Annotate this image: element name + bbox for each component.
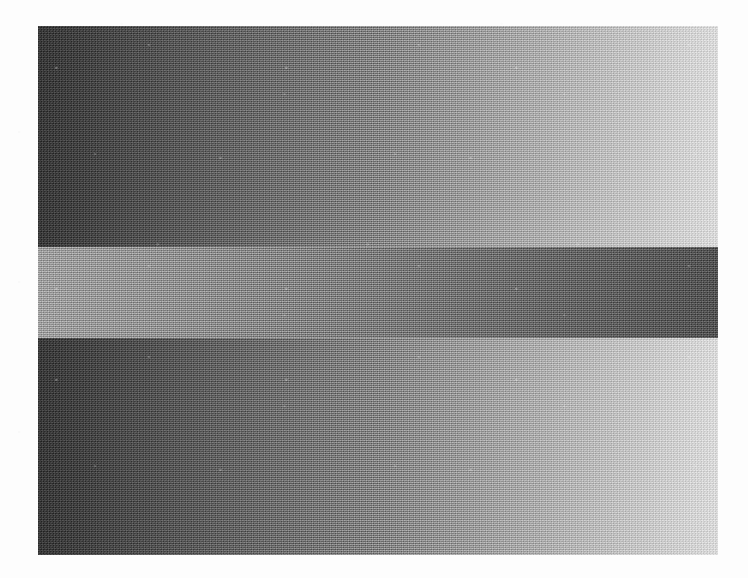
halftone-texture-top	[38, 26, 718, 247]
scan-grain-top	[38, 26, 718, 247]
dust-specks-middle	[38, 247, 718, 338]
dust-specks-bottom	[38, 338, 718, 555]
luminance-band-top	[38, 26, 718, 247]
halftone-texture-bottom	[38, 338, 718, 555]
scan-grain-middle	[38, 247, 718, 338]
luminance-band-bottom	[38, 338, 718, 555]
simultaneous-contrast-figure	[38, 26, 718, 555]
scanned-page	[0, 0, 748, 578]
dust-specks-top	[38, 26, 718, 247]
luminance-band-middle	[38, 247, 718, 338]
halftone-texture-middle	[38, 247, 718, 338]
scan-grain-bottom	[38, 338, 718, 555]
